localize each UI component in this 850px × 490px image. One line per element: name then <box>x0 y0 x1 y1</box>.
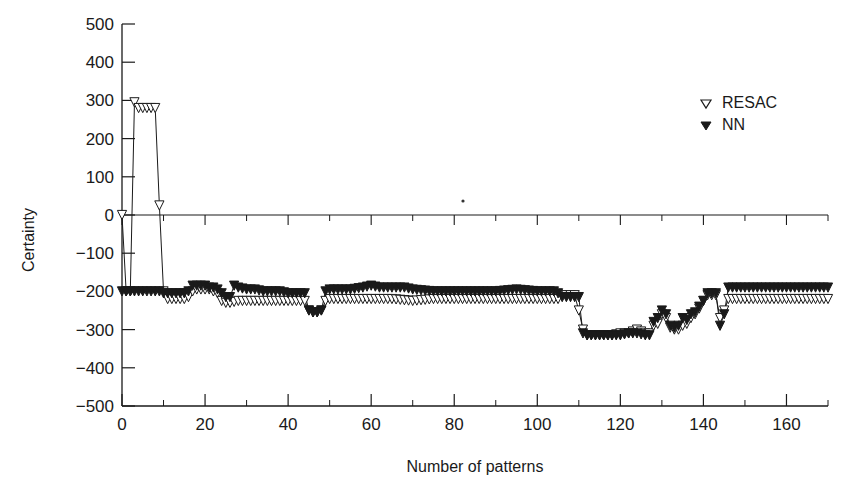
x-tick-label: 100 <box>523 415 551 434</box>
y-tick-label: 500 <box>86 15 114 34</box>
legend-item-resac: RESAC <box>701 94 777 111</box>
resac-markers <box>117 98 832 340</box>
series-markers <box>117 98 832 340</box>
x-tick-label: 140 <box>689 415 717 434</box>
x-axis-title: Number of patterns <box>407 458 544 475</box>
x-tick-label: 20 <box>196 415 215 434</box>
filled-triangle-down-icon <box>701 122 711 130</box>
legend-item-nn: NN <box>701 116 745 133</box>
legend: RESAC NN <box>701 94 777 133</box>
y-tick-label: 200 <box>86 130 114 149</box>
stray-dot <box>461 199 464 202</box>
x-tick-label: 120 <box>606 415 634 434</box>
certainty-chart: 5004003002001000−100−200−300−400−500 020… <box>0 0 850 490</box>
y-tick-label: 300 <box>86 91 114 110</box>
y-tick-label: −100 <box>76 244 114 263</box>
x-tick-label: 160 <box>772 415 800 434</box>
open-triangle-down-icon <box>155 201 164 210</box>
x-tick-label: 60 <box>362 415 381 434</box>
legend-label-resac: RESAC <box>722 94 777 111</box>
open-triangle-down-icon <box>701 100 711 108</box>
open-triangle-down-icon <box>574 306 583 315</box>
nn-markers <box>117 281 832 340</box>
y-tick-label: −300 <box>76 321 114 340</box>
legend-label-nn: NN <box>722 116 745 133</box>
y-tick-label: −400 <box>76 359 114 378</box>
y-tick-label: −500 <box>76 397 114 416</box>
y-tick-label: −200 <box>76 282 114 301</box>
x-tick-label: 0 <box>117 415 126 434</box>
y-tick-label: 100 <box>86 168 114 187</box>
x-tick-label: 40 <box>279 415 298 434</box>
y-axis-title: Certainty <box>20 208 37 272</box>
y-tick-label: 0 <box>105 206 114 225</box>
filled-triangle-down-icon <box>715 321 724 330</box>
x-tick-label: 80 <box>445 415 464 434</box>
y-tick-label: 400 <box>86 53 114 72</box>
